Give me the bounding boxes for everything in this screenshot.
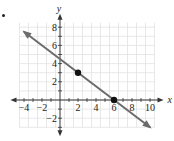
y-tick-label: 4 (52, 58, 57, 69)
y-axis-label: y (56, 3, 62, 14)
coordinate-plane: −4−2246810−22468xy (0, 0, 174, 141)
x-tick-label: −4 (19, 102, 30, 113)
y-axis-arrow-up-icon (58, 14, 63, 20)
data-point (75, 70, 81, 76)
x-axis-label: x (167, 94, 173, 105)
x-axis-arrow-right-icon (158, 98, 164, 103)
y-tick-label: 6 (52, 40, 57, 51)
data-point (111, 97, 117, 103)
y-tick-label: −2 (46, 113, 57, 124)
y-tick-label: 2 (52, 76, 57, 87)
x-tick-label: 6 (112, 102, 117, 113)
x-axis-arrow-left-icon (11, 98, 17, 103)
x-tick-label: −2 (37, 102, 48, 113)
y-tick-label: 8 (52, 22, 57, 33)
y-axis-arrow-down-icon (58, 130, 63, 136)
x-tick-label: 4 (94, 102, 99, 113)
x-tick-label: 10 (145, 102, 155, 113)
x-tick-label: 2 (76, 102, 81, 113)
